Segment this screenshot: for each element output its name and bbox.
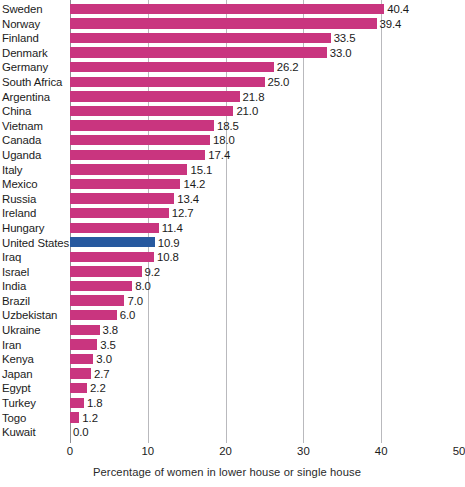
bar-track: 0.0 [70,425,454,440]
bar-row: Denmark33.0 [0,46,454,61]
bar [70,295,124,305]
bar [70,339,97,349]
bar [70,4,384,14]
x-tick-label-50: 50 [453,445,465,457]
bar-row: Sweden40.4 [0,2,454,17]
bar-value-label: 3.8 [103,323,119,338]
bar-track: 3.0 [70,352,454,367]
bar-track: 1.2 [70,411,454,426]
bar-value-label: 10.9 [158,236,180,251]
bar-track: 15.1 [70,163,454,178]
bar-track: 3.8 [70,323,454,338]
category-label: India [2,279,68,294]
bar-value-label: 33.5 [334,31,356,46]
bar-row: Norway39.4 [0,17,454,32]
bar-row: Vietnam18.5 [0,119,454,134]
bar-value-label: 2.7 [94,367,110,382]
bar-track: 18.0 [70,133,454,148]
bar-value-label: 3.5 [100,338,116,353]
bar-value-label: 15.1 [190,163,212,178]
bar [70,106,233,116]
bar [70,252,154,262]
bar-track: 10.9 [70,236,454,251]
bar-value-label: 6.0 [120,308,136,323]
bar-row: Kenya3.0 [0,352,454,367]
bar-row: Hungary11.4 [0,221,454,236]
category-label: Ireland [2,206,68,221]
bar-track: 13.4 [70,192,454,207]
bar-track: 14.2 [70,177,454,192]
bar-value-label: 18.5 [217,119,239,134]
bar-row: Canada18.0 [0,133,454,148]
bar-value-label: 9.2 [145,265,161,280]
bar [70,150,205,160]
bar [70,281,132,291]
bar-value-label: 2.2 [90,381,106,396]
bar-row: South Africa25.0 [0,75,454,90]
bar-track: 21.0 [70,104,454,119]
category-label: Italy [2,163,68,178]
bar [70,77,265,87]
bar [70,398,84,408]
category-label: Russia [2,192,68,207]
bar-track: 7.0 [70,294,454,309]
x-axis-title: Percentage of women in lower house or si… [0,466,454,478]
category-label: Iraq [2,250,68,265]
bar-value-label: 0.0 [73,425,89,440]
category-label: Iran [2,338,68,353]
category-label: Ukraine [2,323,68,338]
category-label: Vietnam [2,119,68,134]
bar-track: 1.8 [70,396,454,411]
bar [70,179,180,189]
bar [70,33,331,43]
bar-row: Italy15.1 [0,163,454,178]
x-tick-label-30: 30 [297,445,310,457]
bar-track: 25.0 [70,75,454,90]
bar-track: 8.0 [70,279,454,294]
bar-track: 33.0 [70,46,454,61]
category-label: Togo [2,411,68,426]
bar-value-label: 10.8 [157,250,179,265]
category-label: Uganda [2,148,68,163]
bar-track: 17.4 [70,148,454,163]
category-label: Hungary [2,221,68,236]
bar [70,325,100,335]
bar-track: 2.7 [70,367,454,382]
bar-value-label: 39.4 [380,17,402,32]
bar-row: Ireland12.7 [0,206,454,221]
bar-value-label: 7.0 [127,294,143,309]
bar-value-label: 14.2 [183,177,205,192]
bar-track: 11.4 [70,221,454,236]
bar [70,193,174,203]
bar-row: Iran3.5 [0,338,454,353]
bar-track: 39.4 [70,17,454,32]
bar-row: Turkey1.8 [0,396,454,411]
category-label: Norway [2,17,68,32]
bar-value-label: 33.0 [330,46,352,61]
category-label: Germany [2,60,68,75]
bar-track: 21.8 [70,90,454,105]
bar-value-label: 3.0 [96,352,112,367]
bar-row: Kuwait0.0 [0,425,454,440]
bar [70,47,327,57]
bar-row: Germany26.2 [0,60,454,75]
bar [70,266,142,276]
bar-row: Mexico14.2 [0,177,454,192]
bar-track: 6.0 [70,308,454,323]
bar-row: United States10.9 [0,236,454,251]
bar-highlighted [70,237,155,247]
bar [70,91,240,101]
bar [70,368,91,378]
bar-track: 10.8 [70,250,454,265]
bar [70,208,169,218]
bar-value-label: 26.2 [277,60,299,75]
bar-row: India8.0 [0,279,454,294]
bar-rows: Sweden40.4Norway39.4Finland33.5Denmark33… [0,2,454,440]
bar [70,383,87,393]
plot-area: Sweden40.4Norway39.4Finland33.5Denmark33… [0,0,454,443]
category-label: Argentina [2,90,68,105]
bar [70,120,214,130]
bar-track: 40.4 [70,2,454,17]
category-label: United States [2,236,68,251]
